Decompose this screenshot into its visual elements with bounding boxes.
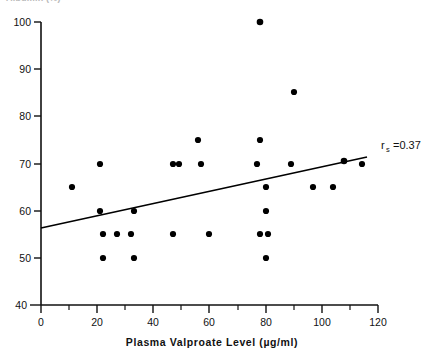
correlation-annotation: r s =0.37 [381,139,421,154]
data-points-group [69,19,365,261]
cropped-top-label: Albumin (%) [6,0,61,3]
data-point [100,255,106,261]
y-axis-tick-labels: 100 90 80 70 60 50 40 [13,16,31,311]
y-tick-label-50: 50 [19,252,31,264]
data-point [114,231,120,237]
x-tick-label-120: 120 [369,316,387,328]
x-axis-tick-labels: 0 20 40 60 80 100 120 [38,316,387,328]
chart-canvas: 100 90 80 70 60 50 40 0 2 [0,0,433,357]
data-point [330,184,336,190]
annotation-symbol: r [381,139,385,151]
data-point [310,184,316,190]
y-tick-label-70: 70 [19,158,31,170]
data-point [97,161,103,167]
y-tick-label-60: 60 [19,205,31,217]
data-point [97,208,103,214]
data-point [131,208,137,214]
data-point [100,231,106,237]
y-tick-label-90: 90 [19,63,31,75]
annotation-value: =0.37 [393,139,421,151]
data-point [263,208,269,214]
y-tick-label-80: 80 [19,110,31,122]
data-point [263,184,269,190]
scatter-plot-figure: Albumin (%) 100 90 80 70 60 50 40 [0,0,433,357]
data-point [265,231,271,237]
data-point [288,161,294,167]
data-point [195,137,201,143]
data-point [128,231,134,237]
data-point [170,231,176,237]
axes-group [41,22,378,305]
y-axis-ticks [30,22,41,305]
data-point [176,161,182,167]
data-point [254,161,260,167]
data-point [263,255,269,261]
data-point [69,184,75,190]
x-tick-label-0: 0 [38,316,44,328]
x-tick-label-100: 100 [313,316,331,328]
data-point [341,158,348,165]
data-point [170,161,176,167]
x-axis-title: Plasma Valproate Level (µg/ml) [126,336,298,348]
data-point [257,19,264,26]
data-point [359,161,365,167]
data-point [131,255,137,261]
x-tick-label-40: 40 [147,316,159,328]
data-point [291,89,297,95]
data-point [198,161,204,167]
y-tick-label-40: 40 [15,299,27,311]
x-axis-ticks [41,305,378,313]
data-point [206,231,212,237]
x-tick-label-80: 80 [260,316,272,328]
annotation-subscript: s [386,145,390,154]
x-tick-label-60: 60 [203,316,215,328]
x-tick-label-20: 20 [91,316,103,328]
y-tick-label-100: 100 [13,16,31,28]
data-point [257,231,263,237]
data-point [257,137,263,143]
trendline [41,157,367,228]
